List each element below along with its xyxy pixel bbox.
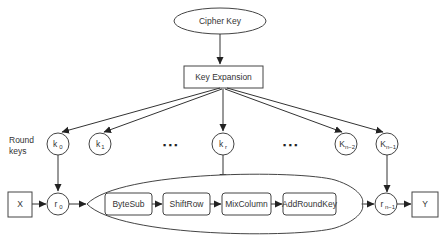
svg-text:r: r xyxy=(225,144,227,150)
round-key-kr: k r xyxy=(212,133,234,155)
arrow-to-k0 xyxy=(62,88,220,132)
round-key-k1: k 1 xyxy=(89,133,111,155)
round-state-r0: r 0 xyxy=(47,193,69,215)
svg-text:Y: Y xyxy=(422,199,428,209)
cipher-key-node: Cipher Key xyxy=(174,8,266,34)
svg-text:n−1: n−1 xyxy=(385,204,396,210)
ellipsis-right: ▪ ▪ ▪ xyxy=(283,140,298,150)
step-bytesub: ByteSub xyxy=(105,193,152,215)
input-x-node: X xyxy=(8,192,32,217)
cipher-key-label: Cipher Key xyxy=(199,16,242,26)
svg-text:MixColumn: MixColumn xyxy=(225,199,268,209)
round-key-kn2: K n−2 xyxy=(335,133,357,155)
round-state-rn1: r n−1 xyxy=(375,193,397,215)
svg-text:n−1: n−1 xyxy=(386,144,397,150)
step-shiftrow: ShiftRow xyxy=(163,193,210,215)
step-addroundkey: AddRoundKey xyxy=(282,193,338,215)
svg-text:n−2: n−2 xyxy=(345,144,356,150)
round-key-k0: k 0 xyxy=(47,133,69,155)
svg-text:r: r xyxy=(55,199,58,209)
svg-text:keys: keys xyxy=(9,146,26,156)
svg-text:ByteSub: ByteSub xyxy=(112,199,144,209)
step-mixcolumn: MixColumn xyxy=(222,193,271,215)
round-keys-label: Round keys xyxy=(9,135,34,156)
output-y-node: Y xyxy=(412,192,438,217)
round-key-kn1: K n−1 xyxy=(376,133,398,155)
arrow-to-k1 xyxy=(104,89,222,132)
svg-text:Round: Round xyxy=(9,135,34,145)
svg-text:X: X xyxy=(17,199,23,209)
arrow-to-kn1 xyxy=(227,88,383,132)
svg-text:ShiftRow: ShiftRow xyxy=(169,199,204,209)
key-expansion-label: Key Expansion xyxy=(195,72,252,82)
svg-text:r: r xyxy=(381,199,384,209)
key-expansion-node: Key Expansion xyxy=(184,66,263,88)
key-expansion-arrows xyxy=(62,88,383,132)
svg-text:AddRoundKey: AddRoundKey xyxy=(282,199,338,209)
aes-diagram: Cipher Key Key Expansion Round keys k 0 … xyxy=(0,0,446,241)
ellipsis-left: ▪ ▪ ▪ xyxy=(163,140,178,150)
arrow-to-kn2 xyxy=(225,89,342,132)
